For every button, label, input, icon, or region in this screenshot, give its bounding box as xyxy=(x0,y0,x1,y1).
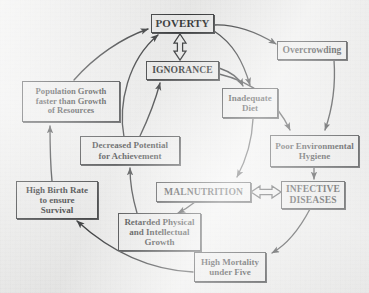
node-decreased-potential-line-2: for Achievement xyxy=(84,151,176,161)
node-population-growth[interactable]: Population Growth faster than Growth of … xyxy=(22,81,120,122)
node-retarded-growth-line-2: and Intellectual xyxy=(122,227,197,237)
node-malnutrition[interactable]: MALNUTRITION xyxy=(156,182,251,202)
node-overcrowding-label: Overcrowding xyxy=(281,45,343,56)
node-retarded-growth-line-1: Retarded Physical xyxy=(122,217,197,227)
node-inadequate-diet-line-2: Diet xyxy=(226,103,274,113)
connector-poverty-overcrowding xyxy=(214,25,276,44)
node-decreased-potential-line-1: Decreased Potential xyxy=(84,140,176,150)
node-infective-diseases-line-2: DISEASES xyxy=(285,195,341,206)
node-poor-environmental-hygiene-line-2: Hygiene xyxy=(274,151,355,161)
connector-decreased-potential-poverty xyxy=(122,35,158,137)
connector-overcrowding-poor-hygiene xyxy=(325,60,335,130)
hollow-double-arrow-poverty-ignorance xyxy=(174,34,186,60)
node-infective-diseases[interactable]: INFECTIVE DISEASES xyxy=(281,181,345,209)
node-poverty-label: POVERTY xyxy=(155,17,210,29)
node-poverty[interactable]: POVERTY xyxy=(151,14,214,33)
node-retarded-growth[interactable]: Retarded Physical and Intellectual Growt… xyxy=(118,213,201,251)
node-high-birth-rate-line-2: to ensure xyxy=(20,195,94,205)
node-high-mortality-under-five[interactable]: High Mortality under Five xyxy=(194,252,266,282)
node-poor-environmental-hygiene-line-1: Poor Environmental xyxy=(274,141,355,151)
node-high-birth-rate[interactable]: High Birth Rate to ensure Survival xyxy=(16,181,98,219)
connector-inadequate-diet-malnutrition xyxy=(237,119,253,177)
connector-poverty-inadequate-diet xyxy=(214,31,250,85)
node-population-growth-line-3: of Resources xyxy=(26,106,116,116)
node-high-birth-rate-line-1: High Birth Rate xyxy=(20,185,94,195)
node-malnutrition-label: MALNUTRITION xyxy=(160,187,247,198)
connector-infective-diseases-high-mortality xyxy=(272,209,310,253)
connector-malnutrition-retarded-growth xyxy=(178,202,195,213)
node-overcrowding[interactable]: Overcrowding xyxy=(277,41,347,60)
node-ignorance-label: IGNORANCE xyxy=(150,65,215,76)
node-inadequate-diet-line-1: Inadequate xyxy=(226,93,274,103)
node-high-birth-rate-line-3: Survival xyxy=(20,205,94,215)
connector-population-growth-poverty xyxy=(74,29,148,80)
node-high-mortality-under-five-line-2: under Five xyxy=(198,267,262,277)
connector-high-birth-rate-population-growth xyxy=(50,126,52,181)
node-retarded-growth-line-3: Growth xyxy=(122,237,197,247)
connector-retarded-growth-decreased-potential xyxy=(130,168,137,213)
hollow-double-arrow-malnutrition-infective-diseases xyxy=(251,186,281,198)
diagram-canvas: POVERTY IGNORANCE Overcrowding Inadequat… xyxy=(0,0,369,293)
connector-decreased-potential-ignorance xyxy=(140,83,160,136)
node-poor-environmental-hygiene[interactable]: Poor Environmental Hygiene xyxy=(270,135,359,167)
node-decreased-potential[interactable]: Decreased Potential for Achievement xyxy=(80,136,180,165)
node-ignorance[interactable]: IGNORANCE xyxy=(146,61,219,80)
node-inadequate-diet[interactable]: Inadequate Diet xyxy=(222,88,278,118)
node-high-mortality-under-five-line-1: High Mortality xyxy=(198,257,262,267)
